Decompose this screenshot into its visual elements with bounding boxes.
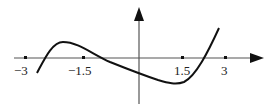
tick-label-neg1_5: −1.5 bbox=[68, 63, 92, 78]
function-graph: −3 −1.5 1.5 3 bbox=[0, 0, 280, 107]
tick-label-neg3: −3 bbox=[14, 63, 28, 78]
tick-neg3 bbox=[24, 56, 27, 59]
y-axis-arrow-icon bbox=[134, 7, 144, 21]
function-curve bbox=[37, 28, 219, 83]
tick-3 bbox=[224, 56, 227, 59]
tick-neg1_5 bbox=[82, 56, 85, 59]
tick-1_5 bbox=[181, 56, 184, 59]
tick-label-1_5: 1.5 bbox=[174, 63, 190, 78]
tick-label-3: 3 bbox=[221, 63, 228, 78]
x-axis-arrow-icon bbox=[250, 53, 264, 63]
